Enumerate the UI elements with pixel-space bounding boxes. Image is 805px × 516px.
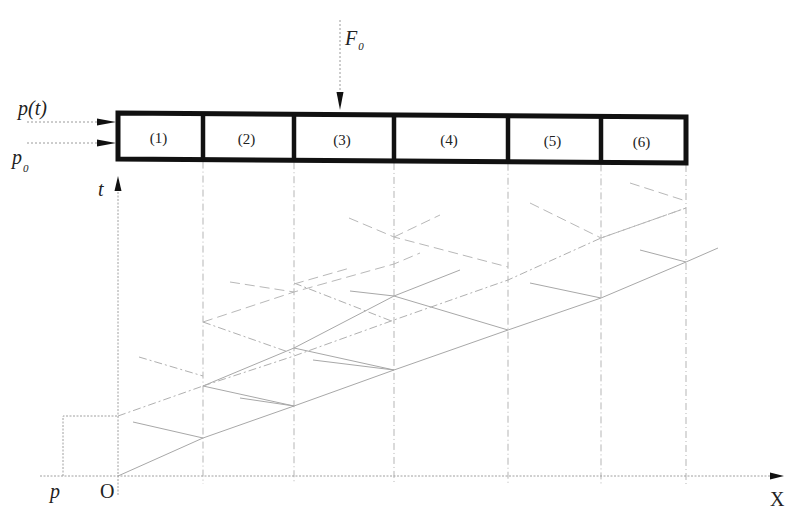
characteristic-solid-line [640,250,686,262]
characteristic-solid-line [203,386,294,406]
x-axis-arrow-icon [770,473,784,480]
rod: (1)(2)(3)(4)(5)(6) [118,113,686,163]
characteristic-dashed-line [530,203,601,238]
characteristic-dashdot-line [118,386,203,416]
pressure-0-label: p0 [10,146,29,174]
t-axis-label: t [98,178,104,200]
segment-boundary-gridlines [203,162,686,484]
characteristic-solid-line [133,422,203,438]
pressure-t-label: p(t) [16,97,47,120]
characteristic-solid-line [118,248,718,476]
segment-dividers [203,114,601,163]
characteristic-dashed-line [394,215,440,237]
segment-label: (3) [333,132,351,149]
segment-label: (5) [544,133,562,150]
characteristic-solid-line [203,270,460,386]
characteristic-lines [118,183,718,476]
force-label: F0 [344,27,364,52]
p-input-step-line [63,416,118,476]
p0-arrow-icon [97,140,116,147]
characteristic-dashed-line [630,183,686,201]
characteristic-solid-line [294,348,394,370]
characteristic-solid-line [530,283,601,298]
origin-label: O [100,480,114,502]
characteristic-solid-line [350,291,394,296]
characteristic-dashdot-line [203,322,294,354]
characteristic-dashed-line [294,268,350,284]
characteristic-dashdot-line [139,357,203,376]
segment-label: (2) [238,131,256,148]
axes [40,176,784,495]
x-axis-label: X [770,488,785,510]
characteristic-solid-line [394,296,508,330]
f0-arrow-icon [337,92,344,110]
characteristic-dashdot-line [294,283,394,322]
pt-arrow-icon [97,119,116,126]
characteristic-dashdot-line [203,208,686,386]
characteristic-dashed-line [203,253,420,322]
characteristic-dashed-line [230,282,294,292]
segment-label: (4) [440,132,458,149]
segment-label: (1) [150,130,168,147]
symbol-labels: F0 p(t) p0 t p O X [10,27,785,510]
segment-label: (6) [633,134,651,151]
characteristic-dashed-line [349,218,508,267]
segment-labels: (1)(2)(3)(4)(5)(6) [150,130,651,150]
p-axis-label: p [48,480,60,503]
characteristic-solid-line [240,398,294,406]
t-axis-arrow-icon [115,176,122,191]
characteristics-diagram: (1)(2)(3)(4)(5)(6) F0 p(t) p0 t p O X [0,0,805,516]
